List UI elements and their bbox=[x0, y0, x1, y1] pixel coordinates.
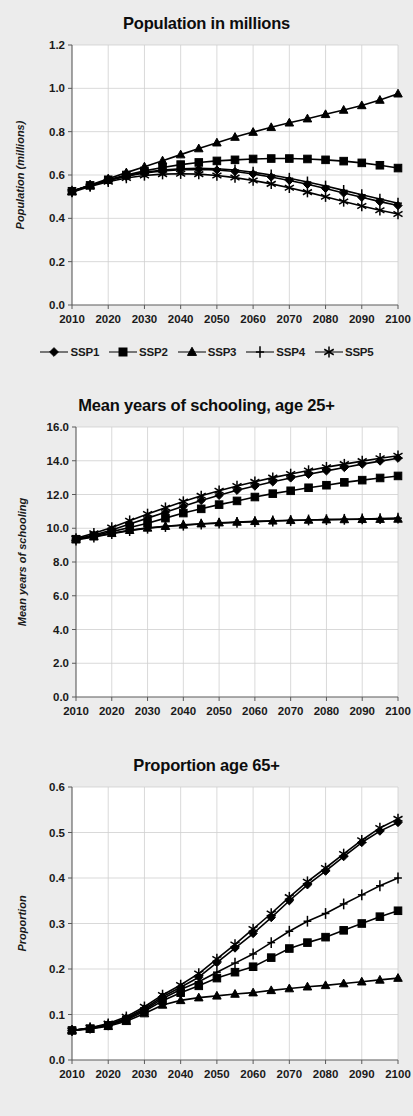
square-marker bbox=[322, 156, 330, 164]
square-marker bbox=[269, 490, 277, 498]
y-tick-label: 0.2 bbox=[49, 256, 65, 268]
square-marker bbox=[394, 164, 402, 172]
x-tick-label: 2100 bbox=[385, 705, 411, 717]
x-tick-label: 2100 bbox=[385, 313, 411, 325]
square-marker bbox=[376, 161, 384, 169]
chart-legend: SSP1SSP2SSP3SSP4SSP5 bbox=[0, 344, 413, 360]
square-marker bbox=[108, 344, 138, 360]
square-marker bbox=[180, 509, 188, 517]
x-tick-label: 2070 bbox=[277, 313, 303, 325]
square-marker bbox=[358, 476, 366, 484]
square-marker bbox=[358, 920, 366, 928]
y-tick-label: 1.0 bbox=[49, 82, 65, 94]
legend-item-ssp5[interactable]: SSP5 bbox=[314, 344, 374, 360]
chart-title-schooling: Mean years of schooling, age 25+ bbox=[0, 380, 413, 415]
square-marker bbox=[304, 155, 312, 163]
square-marker bbox=[267, 155, 275, 163]
square-marker bbox=[305, 484, 313, 492]
square-marker bbox=[376, 913, 384, 921]
square-marker bbox=[340, 157, 348, 165]
legend-label: SSP1 bbox=[70, 346, 99, 358]
square-marker bbox=[376, 474, 384, 482]
square-marker bbox=[251, 493, 259, 501]
x-tick-label: 2030 bbox=[132, 313, 158, 325]
x-tick-label: 2030 bbox=[135, 705, 161, 717]
square-marker bbox=[267, 954, 275, 962]
legend-label: SSP3 bbox=[208, 346, 237, 358]
diamond-marker bbox=[39, 344, 69, 360]
square-marker bbox=[322, 933, 330, 941]
plus-marker bbox=[245, 344, 275, 360]
square-marker bbox=[340, 927, 348, 935]
chart-title-aged65: Proportion age 65+ bbox=[0, 740, 413, 775]
square-marker bbox=[249, 963, 257, 971]
x-tick-label: 2010 bbox=[63, 705, 89, 717]
x-tick-label: 2070 bbox=[278, 705, 304, 717]
y-axis-title: Population (millions) bbox=[14, 120, 26, 229]
y-axis-title: Proportion bbox=[16, 895, 28, 951]
x-tick-label: 2050 bbox=[204, 1068, 230, 1080]
x-tick-label: 2020 bbox=[95, 1068, 121, 1080]
y-tick-label: 4.0 bbox=[53, 624, 69, 636]
x-tick-label: 2020 bbox=[95, 313, 121, 325]
asterisk-marker bbox=[314, 344, 344, 360]
square-marker bbox=[323, 481, 331, 489]
square-marker bbox=[394, 907, 402, 915]
y-tick-label: 0.4 bbox=[49, 872, 66, 884]
chart-svg-schooling: 0.02.04.06.08.010.012.014.016.0201020202… bbox=[0, 415, 413, 735]
chart-panel-aged65: Proportion age 65+ 0.00.10.20.30.40.50.6… bbox=[0, 740, 413, 1116]
square-marker bbox=[287, 487, 295, 495]
y-tick-label: 12.0 bbox=[47, 489, 69, 501]
x-tick-label: 2080 bbox=[313, 1068, 339, 1080]
y-tick-label: 0.4 bbox=[49, 212, 66, 224]
y-tick-label: 16.0 bbox=[47, 421, 69, 433]
legend-item-ssp3[interactable]: SSP3 bbox=[177, 344, 237, 360]
square-marker bbox=[341, 479, 349, 487]
y-tick-label: 0.0 bbox=[49, 299, 65, 311]
x-tick-label: 2020 bbox=[99, 705, 125, 717]
x-tick-label: 2030 bbox=[132, 1068, 158, 1080]
legend-item-ssp2[interactable]: SSP2 bbox=[108, 344, 168, 360]
plot-area-aged65: 0.00.10.20.30.40.50.62010202020302040205… bbox=[0, 775, 413, 1105]
square-marker bbox=[286, 155, 294, 163]
y-tick-label: 0.2 bbox=[49, 963, 65, 975]
square-marker bbox=[231, 968, 239, 976]
y-axis-title: Mean years of schooling bbox=[16, 498, 28, 627]
chart-svg-population: 0.00.20.40.60.81.01.22010202020302040205… bbox=[0, 33, 413, 333]
x-tick-label: 2040 bbox=[168, 1068, 194, 1080]
square-marker bbox=[394, 472, 402, 480]
x-tick-label: 2060 bbox=[242, 705, 268, 717]
y-tick-label: 1.2 bbox=[49, 39, 65, 51]
y-tick-label: 0.0 bbox=[49, 1054, 65, 1066]
x-tick-label: 2090 bbox=[349, 1068, 375, 1080]
chart-panel-population: Population in millions 0.00.20.40.60.81.… bbox=[0, 0, 413, 380]
chart-title-population: Population in millions bbox=[0, 0, 413, 33]
y-tick-label: 6.0 bbox=[53, 590, 69, 602]
square-marker bbox=[233, 497, 241, 505]
x-tick-label: 2090 bbox=[349, 705, 375, 717]
figure-page: Population in millions 0.00.20.40.60.81.… bbox=[0, 0, 413, 1116]
x-tick-label: 2100 bbox=[385, 1068, 411, 1080]
legend-item-ssp4[interactable]: SSP4 bbox=[245, 344, 305, 360]
legend-label: SSP2 bbox=[139, 346, 168, 358]
x-tick-label: 2040 bbox=[168, 313, 194, 325]
triangle-marker bbox=[177, 344, 207, 360]
x-tick-label: 2010 bbox=[59, 1068, 85, 1080]
y-tick-label: 0.5 bbox=[49, 827, 66, 839]
y-tick-label: 0.3 bbox=[49, 918, 65, 930]
x-tick-label: 2070 bbox=[277, 1068, 303, 1080]
x-tick-label: 2090 bbox=[349, 313, 375, 325]
x-tick-label: 2010 bbox=[59, 313, 85, 325]
y-tick-label: 2.0 bbox=[53, 657, 69, 669]
y-tick-label: 0.8 bbox=[49, 126, 66, 138]
square-marker bbox=[286, 945, 294, 953]
legend-label: SSP5 bbox=[345, 346, 374, 358]
x-tick-label: 2080 bbox=[313, 313, 339, 325]
x-tick-label: 2050 bbox=[206, 705, 232, 717]
x-tick-label: 2040 bbox=[171, 705, 197, 717]
chart-svg-aged65: 0.00.10.20.30.40.50.62010202020302040205… bbox=[0, 775, 413, 1105]
legend-item-ssp1[interactable]: SSP1 bbox=[39, 344, 99, 360]
square-marker bbox=[304, 939, 312, 947]
y-tick-label: 0.6 bbox=[49, 169, 65, 181]
x-tick-label: 2060 bbox=[240, 1068, 266, 1080]
